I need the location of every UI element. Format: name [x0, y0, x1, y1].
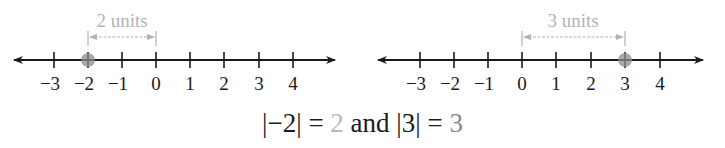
tick-label: −2 [440, 73, 460, 94]
tick-label: −3 [40, 73, 60, 94]
distance-label: 3 units [547, 10, 598, 31]
tick-label: 1 [185, 73, 195, 94]
number-line-left: −3 −2 −1 0 1 2 3 4 2 units [14, 10, 335, 94]
tick-label: 2 [586, 73, 596, 94]
tick-label: −3 [406, 73, 426, 94]
tick-label: 4 [288, 73, 298, 94]
equation-part-1: |−2| = [262, 108, 330, 138]
distance-annotation-right: 3 units [522, 10, 625, 46]
tick-label: −2 [74, 73, 94, 94]
highlighted-point-dot-icon [618, 53, 632, 67]
distance-label: 2 units [96, 10, 147, 31]
tick-label: 0 [151, 73, 161, 94]
distance-annotation-left: 2 units [88, 10, 156, 46]
absolute-value-equation: |−2| = 2 and |3| = 3 [0, 108, 725, 139]
tick-label: 4 [655, 73, 665, 94]
tick-labels: −3 −2 −1 0 1 2 3 4 [40, 73, 298, 94]
tick-label: −1 [108, 73, 128, 94]
tick-label: 0 [517, 73, 527, 94]
highlighted-point-dot-icon [81, 53, 95, 67]
tick-label: 2 [219, 73, 229, 94]
tick-label: 1 [551, 73, 561, 94]
equation-value-2: 3 [449, 108, 463, 138]
tick-label: −1 [474, 73, 494, 94]
tick-label: 3 [254, 73, 264, 94]
equation-middle: and |3| = [344, 108, 450, 138]
tick-label: 3 [620, 73, 630, 94]
equation-value-1: 2 [330, 108, 344, 138]
number-line-right: −3 −2 −1 0 1 2 3 4 3 units [378, 10, 703, 94]
tick-labels: −3 −2 −1 0 1 2 3 4 [406, 73, 665, 94]
